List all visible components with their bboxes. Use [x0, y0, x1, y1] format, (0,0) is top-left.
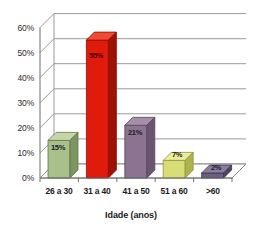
- y-tick-label-20: 20%: [4, 123, 34, 133]
- bar-label-26-a-30: 15%: [51, 143, 65, 152]
- y-tick-label-30: 30%: [4, 98, 34, 108]
- y-tick-label-10: 10%: [4, 148, 34, 158]
- x-tick-label-mais-de-60: >60: [194, 186, 232, 196]
- y-tick-label-60: 60%: [4, 23, 34, 33]
- chart-canvas: [0, 0, 262, 236]
- plot-area: 60% 50% 40% 30% 20% 10% 0% 15% 55% 21% 7…: [0, 0, 262, 236]
- y-tick-label-40: 40%: [4, 73, 34, 83]
- x-tick-label-41-a-50: 41 a 50: [117, 186, 155, 196]
- bar-label-mais-de-60: 2%: [211, 163, 221, 172]
- bar-label-51-a-60: 7%: [172, 150, 182, 159]
- bar-label-31-a-40: 55%: [89, 51, 103, 60]
- bar-41-a-50[interactable]: [125, 117, 155, 178]
- x-tick-label-26-a-30: 26 a 30: [40, 186, 78, 196]
- x-tick-label-51-a-60: 51 a 60: [155, 186, 193, 196]
- x-tick-label-31-a-40: 31 a 40: [78, 186, 116, 196]
- x-axis-ticks: [40, 178, 232, 182]
- bar-26-a-30[interactable]: [48, 132, 78, 178]
- bar-label-41-a-50: 21%: [128, 128, 142, 137]
- x-axis-title: Idade (anos): [0, 210, 262, 220]
- bar-chart: 60% 50% 40% 30% 20% 10% 0% 15% 55% 21% 7…: [0, 0, 262, 236]
- y-tick-label-50: 50%: [4, 48, 34, 58]
- y-tick-label-0: 0%: [4, 173, 34, 183]
